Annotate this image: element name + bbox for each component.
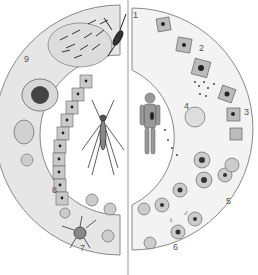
stage-label-6: 6 [173, 243, 178, 252]
stage-label-1: 1 [133, 11, 138, 20]
stage-label-2: 2 [199, 44, 204, 53]
stage-label-4: 4 [184, 102, 189, 111]
oocyst-small [21, 154, 33, 166]
human-figure [140, 93, 160, 154]
oocyst-medium [14, 120, 34, 144]
salivary-sporozoites [48, 23, 112, 67]
life-cycle-diagram [0, 0, 258, 275]
stage-label-5: 5 [226, 197, 231, 206]
stage-label-7: 7 [80, 244, 85, 253]
female-symbol: ♀ [168, 217, 174, 225]
stage-label-3: 3 [244, 108, 249, 117]
stage-label-9: 9 [24, 55, 29, 64]
mosquito-center [82, 100, 124, 175]
stage-label-8: 8 [52, 186, 57, 195]
male-symbol: ♂ [183, 210, 189, 218]
